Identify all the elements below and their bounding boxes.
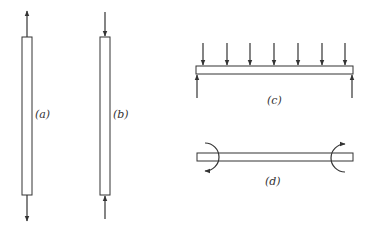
bar-b (100, 37, 110, 195)
panel-c: (c) (196, 43, 353, 107)
bar-a (22, 37, 32, 195)
loading-diagram: (a) (b) (c) (d) (0, 0, 370, 227)
panel-d: (d) (197, 143, 353, 188)
label-a: (a) (35, 108, 50, 121)
distributed-point-loads (203, 43, 345, 65)
label-d: (d) (265, 175, 281, 188)
panel-b: (b) (100, 12, 129, 219)
beam-c (196, 66, 353, 74)
beam-d (197, 153, 353, 161)
label-c: (c) (267, 94, 282, 107)
panel-a: (a) (22, 11, 50, 221)
label-b: (b) (113, 108, 129, 121)
